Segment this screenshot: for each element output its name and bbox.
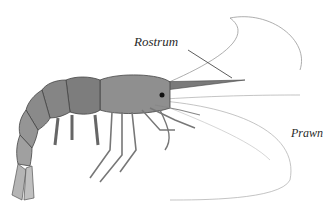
- antenna-upper: [150, 17, 302, 90]
- carapace: [100, 75, 170, 114]
- antenna-lower: [150, 100, 291, 200]
- prawn-illustration: Rostrum Prawn: [0, 0, 325, 206]
- rostrum-label: Rostrum: [134, 34, 178, 50]
- prawn-label: Prawn: [291, 126, 323, 141]
- prawn-drawing: [0, 0, 325, 206]
- tail-fan: [12, 164, 26, 200]
- eye: [160, 93, 165, 98]
- rostrum-leader-line: [188, 50, 232, 78]
